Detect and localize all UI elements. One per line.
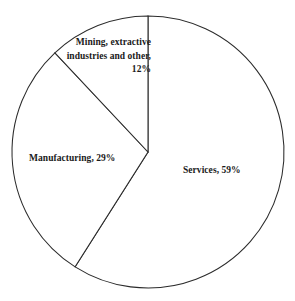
pie-label-mining-line2: industries and other, <box>40 50 151 64</box>
pie-label-mining: Mining, extractive industries and other,… <box>40 36 151 77</box>
pie-label-mining-line3: 12% <box>40 63 151 77</box>
pie-label-manufacturing: Manufacturing, 29% <box>29 152 115 166</box>
pie-label-mining-line1: Mining, extractive <box>40 36 151 50</box>
pie-label-services: Services, 59% <box>183 164 241 178</box>
pie-chart-figure: Mining, extractive industries and other,… <box>0 0 295 301</box>
